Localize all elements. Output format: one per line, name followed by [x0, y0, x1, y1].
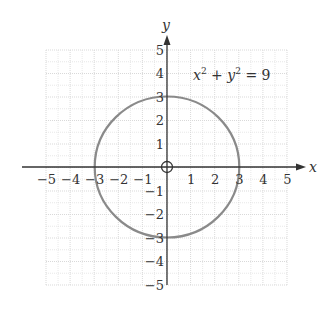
x-tick-label: 2 [211, 172, 219, 187]
y-tick-label: −5 [145, 278, 164, 293]
x-tick-label: 1 [187, 172, 195, 187]
x-tick-label: −4 [61, 172, 80, 187]
y-tick-label: −4 [145, 254, 164, 269]
y-tick-label: 2 [156, 113, 164, 128]
x-axis-label: x [309, 159, 317, 175]
x-tick-label: 3 [235, 172, 243, 187]
y-tick-label: 3 [156, 90, 164, 105]
y-tick-label: −3 [145, 231, 164, 246]
x-tick-label: −5 [37, 172, 56, 187]
y-tick-label: 1 [156, 137, 164, 152]
y-tick-label: −1 [145, 184, 164, 199]
equation-label: x2 + y2 = 9 [193, 66, 270, 83]
x-tick-label: −2 [109, 172, 128, 187]
y-axis-arrow-icon [164, 35, 171, 45]
x-tick-label: −3 [85, 172, 104, 187]
x-axis-arrow-icon [296, 164, 306, 171]
x-tick-label: 5 [283, 172, 291, 187]
x-tick-label: 4 [259, 172, 267, 187]
y-tick-label: 4 [156, 66, 164, 81]
y-axis-label: y [161, 17, 171, 33]
y-tick-label: −2 [145, 207, 164, 222]
circle-graph: −5−4−3−2−11234554321−1−2−3−4−5 x y x2 + … [0, 0, 329, 315]
y-tick-label: 5 [156, 43, 164, 58]
